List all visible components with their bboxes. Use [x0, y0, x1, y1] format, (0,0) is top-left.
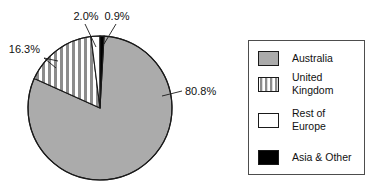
pct-label-united-kingdom: 16.3%	[9, 43, 40, 55]
striped-swatch	[259, 78, 279, 92]
white-swatch	[259, 114, 279, 128]
legend-label-rest-of-europe-line1: Rest of	[292, 107, 325, 119]
legend-label-rest-of-europe-line2: Europe	[292, 120, 326, 132]
pct-label-rest-of-europe: 2.0%	[73, 10, 98, 22]
legend-label-australia: Australia	[292, 52, 333, 64]
legend-label-asia-and-other: Asia & Other	[292, 151, 352, 163]
legend-item-australia[interactable]: Australia	[259, 52, 334, 66]
legend-label-united-kingdom-line2: Kingdom	[292, 84, 334, 96]
pct-label-asia-and-other: 0.9%	[104, 10, 129, 22]
chart-canvas: 80.8% 16.3% 2.0% 0.9% Australia United K…	[0, 0, 373, 194]
pie-chart-figure: 80.8% 16.3% 2.0% 0.9% Australia United K…	[0, 0, 373, 194]
legend-item-asia-and-other[interactable]: Asia & Other	[259, 151, 353, 165]
pie-group	[28, 36, 172, 180]
legend: Australia United Kingdom Rest of Europe …	[249, 41, 365, 175]
gray-swatch	[259, 52, 279, 66]
pct-label-australia: 80.8%	[185, 85, 216, 97]
black-swatch	[259, 151, 279, 165]
legend-label-united-kingdom-line1: United	[292, 71, 323, 83]
